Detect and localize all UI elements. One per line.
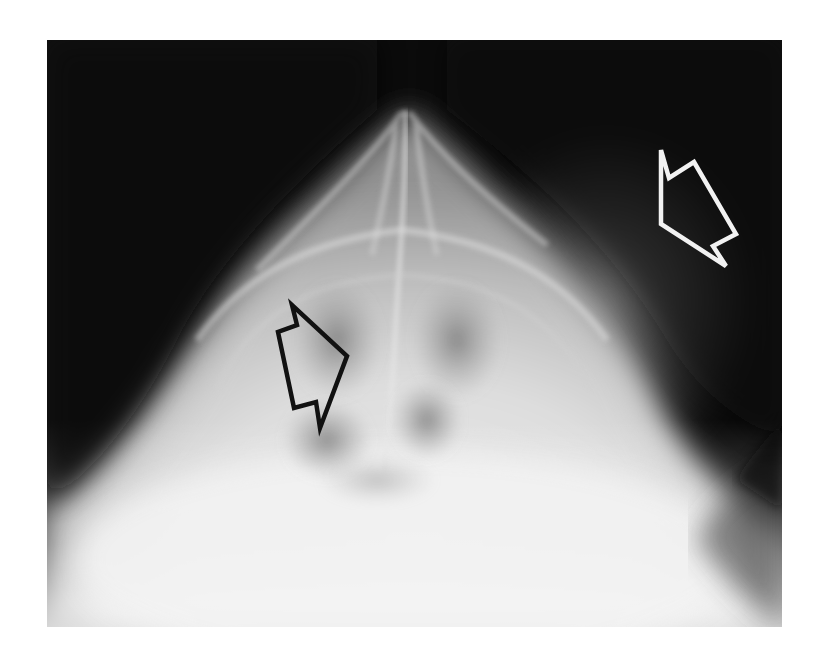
annotation-layer (47, 40, 782, 627)
white-arrow-icon (661, 150, 736, 266)
radiograph-image (47, 40, 782, 627)
black-arrow-icon (278, 305, 347, 428)
